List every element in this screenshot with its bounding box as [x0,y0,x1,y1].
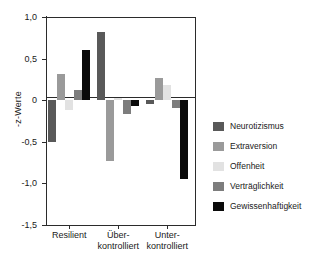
legend-label: Gewissenhaftigkeit [230,202,301,211]
x-category-line1: Über- [107,230,130,240]
x-category-line1: Unter- [155,230,180,240]
bar [74,90,82,100]
bar [123,100,131,114]
legend-swatch-icon [213,162,224,171]
y-tick-label: 0 [3,96,37,105]
legend-label: Extraversion [230,142,277,151]
legend-label: Neurotizismus [230,122,284,131]
y-tick-label: -1,0 [3,179,37,188]
chart-figure: -z-Werte 1,00,50-0,5-1,0-1,5 ResilientÜb… [0,0,331,273]
legend-item: Offenheit [213,156,301,176]
y-tick-mark [42,183,47,184]
bar [48,100,56,142]
y-tick-label: 0,5 [3,55,37,64]
y-tick-mark [42,100,47,101]
bar [163,85,171,100]
bar [114,98,122,100]
bar [65,100,73,110]
y-tick-label: 1,0 [3,13,37,22]
plot-right-border [195,17,196,226]
y-tick-mark [42,142,47,143]
y-tick-mark [42,17,47,18]
bar [146,100,154,104]
x-category-label: Unter-kontrolliert [130,230,204,252]
y-tick-label: -1,5 [3,221,37,230]
legend-label: Verträglichkeit [230,182,283,191]
legend-swatch-icon [213,182,224,191]
y-tick-mark [42,59,47,60]
bar [155,78,163,100]
legend-item: Extraversion [213,136,301,156]
bar [82,50,90,100]
legend-swatch-icon [213,142,224,151]
x-tick-mark [69,225,70,229]
x-category-line2: kontrolliert [146,241,188,251]
legend-item: Gewissenhaftigkeit [213,196,301,216]
bar [97,32,105,100]
plot-top-border [47,17,196,18]
bar [106,100,114,161]
bar [172,100,180,107]
bar [131,100,139,106]
y-tick-mark [42,225,47,226]
legend-swatch-icon [213,202,224,211]
chart-legend: NeurotizismusExtraversionOffenheitVerträ… [213,116,301,216]
bar [180,100,188,179]
legend-label: Offenheit [230,162,264,171]
legend-swatch-icon [213,122,224,131]
y-tick-label: -0,5 [3,138,37,147]
legend-item: Neurotizismus [213,116,301,136]
bar [57,74,65,101]
y-axis-line [46,16,47,226]
legend-item: Verträglichkeit [213,176,301,196]
x-tick-mark [167,225,168,229]
x-tick-mark [118,225,119,229]
